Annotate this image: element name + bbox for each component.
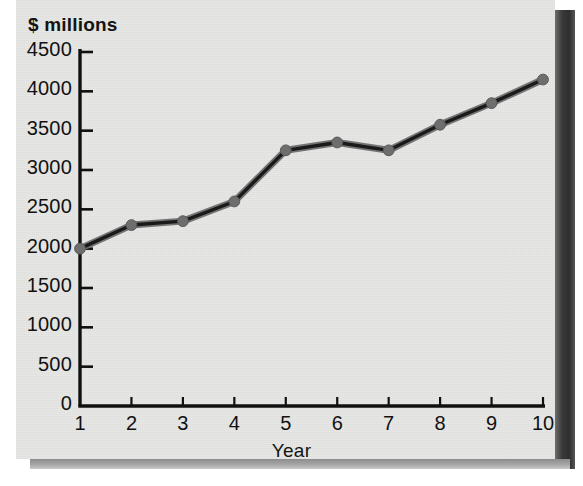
y-tick-label: 3500 [2,117,72,140]
y-tick-label: 4000 [2,77,72,100]
x-tick-label: 8 [420,412,460,435]
data-point-marker [177,216,188,227]
axis-group [78,49,545,406]
x-tick-label: 4 [214,412,254,435]
series-line [80,80,543,249]
x-tick-label: 3 [163,412,203,435]
y-tick-label: 2000 [2,235,72,258]
y-tick-label: 2500 [2,195,72,218]
screenshot-root: $ millions Year 050010001500200025003000… [0,0,583,486]
x-tick-label: 1 [60,412,100,435]
y-tick-label: 1000 [2,313,72,336]
x-tick-label: 2 [111,412,151,435]
y-tick-label: 1500 [2,274,72,297]
y-tick-label: 3000 [2,156,72,179]
data-point-marker [332,137,343,148]
data-point-marker [435,119,446,130]
data-point-marker [229,196,240,207]
x-tick-label: 5 [266,412,306,435]
data-point-marker [383,145,394,156]
data-point-marker [486,98,497,109]
line-chart: $ millions Year 050010001500200025003000… [0,0,583,486]
data-point-marker [280,145,291,156]
data-point-marker [126,220,137,231]
data-point-marker [75,243,86,254]
y-tick-label: 500 [2,353,72,376]
x-tick-label: 7 [369,412,409,435]
data-point-marker [538,74,549,85]
x-tick-label: 9 [472,412,512,435]
series-group [80,80,543,249]
x-tick-label: 10 [523,412,563,435]
y-tick-label: 4500 [2,38,72,61]
x-tick-label: 6 [317,412,357,435]
